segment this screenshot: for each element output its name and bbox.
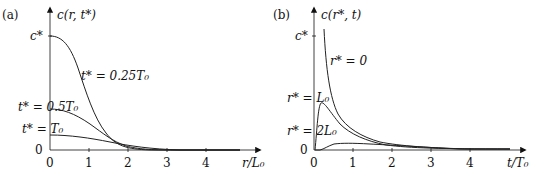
panel-a-axes <box>48 8 260 152</box>
panel-b-series3-label: r* = 2L₀ <box>287 125 337 137</box>
panel-a-series2-label: t* = 0.5T₀ <box>18 101 78 113</box>
panel-a-zero-tick: 0 <box>35 144 43 156</box>
panel-b-xtick-3: 3 <box>427 157 435 169</box>
panel-a-series1-label: t* = 0.25T₀ <box>81 70 149 82</box>
panel-a-xtick-4: 4 <box>202 157 210 169</box>
curve-t-025 <box>50 36 240 150</box>
panel-b-zero-tick: 0 <box>300 144 308 156</box>
panel-a-xlabel: r/L₀ <box>242 157 265 169</box>
chart-canvas <box>0 0 541 182</box>
panel-b-xtick-2: 2 <box>388 157 396 169</box>
panel-a-cstar-tick: c* <box>30 30 43 42</box>
panel-b-label: (b) <box>273 9 290 21</box>
panel-b-series1-label: r* = 0 <box>330 55 367 67</box>
panel-b-ylabel: c(r*, t) <box>321 9 361 21</box>
panel-b-cstar-tick: c* <box>295 30 308 42</box>
panel-b-xtick-4: 4 <box>466 157 474 169</box>
panel-a-label: (a) <box>2 9 19 21</box>
panel-b-axes <box>312 8 525 152</box>
panel-a-xtick-2: 2 <box>124 157 132 169</box>
panel-a-curves <box>50 36 240 150</box>
curve-r-2L <box>315 143 510 150</box>
panel-b-xtick-1: 1 <box>349 157 357 169</box>
panel-a-ylabel: c(r, t*) <box>57 9 96 21</box>
panel-a-xtick-3: 3 <box>163 157 171 169</box>
panel-a-series3-label: t* = T₀ <box>22 123 63 135</box>
panel-b-xlabel: t/T₀ <box>507 157 529 169</box>
panel-b-xtick-0: 0 <box>310 157 318 169</box>
curve-r-0 <box>324 29 510 149</box>
curve-t-05 <box>50 109 240 150</box>
panel-a-xtick-1: 1 <box>85 157 93 169</box>
panel-a-xtick-0: 0 <box>46 157 54 169</box>
panel-b-curves <box>315 29 510 150</box>
panel-b-series2-label: r* = L₀ <box>287 92 329 104</box>
curve-t-1 <box>50 135 240 150</box>
